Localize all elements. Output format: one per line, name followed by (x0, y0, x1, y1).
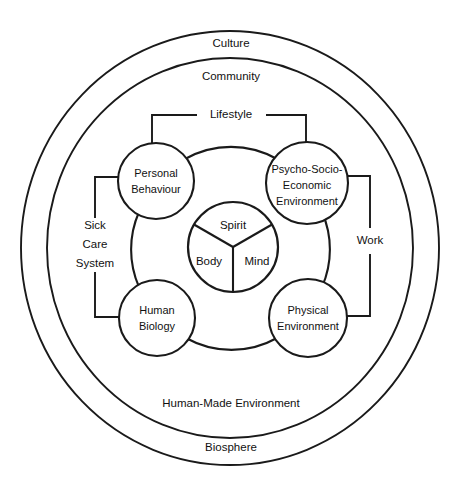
core-label-spirit: Spirit (220, 219, 247, 231)
bracket-label-work: Work (357, 234, 384, 246)
ring-label-human-made-environment: Human-Made Environment (162, 397, 300, 409)
node-human-biology[interactable] (119, 280, 195, 356)
node-label-human-biology-line2: Biology (139, 320, 176, 332)
node-label-psycho-socio-economic-environment-line1: Psycho-Socio- (272, 163, 343, 175)
ring-arc-right (322, 212, 330, 287)
node-personal-behaviour[interactable] (118, 143, 194, 219)
ring-label-biosphere: Biosphere (205, 441, 257, 453)
node-label-physical-environment-line2: Environment (277, 320, 339, 332)
ring-arc-top (185, 147, 277, 159)
core-label-mind: Mind (245, 255, 270, 267)
node-physical-environment[interactable] (269, 279, 347, 357)
node-label-physical-environment-line1: Physical (288, 304, 329, 316)
ring-arc-left (131, 212, 139, 287)
ring-arc-bottom (186, 338, 277, 350)
bracket-label-sick-care-system-line2: Care (83, 238, 108, 250)
mandala-of-health-diagram: Lifestyle Sick Care System Work Personal… (0, 0, 462, 489)
bracket-label-sick-care-system-line1: Sick (84, 219, 106, 231)
bracket-label-lifestyle: Lifestyle (210, 108, 252, 120)
node-label-psycho-socio-economic-environment-line2: Economic (283, 179, 332, 191)
node-label-psycho-socio-economic-environment-line3: Environment (276, 195, 338, 207)
ring-label-community: Community (202, 70, 260, 82)
node-label-human-biology-line1: Human (139, 304, 174, 316)
bracket-label-sick-care-system-line3: System (76, 257, 114, 269)
node-label-personal-behaviour-line2: Behaviour (131, 183, 181, 195)
core-label-body: Body (196, 255, 222, 267)
node-label-personal-behaviour-line1: Personal (134, 167, 177, 179)
ring-label-culture: Culture (212, 37, 249, 49)
diagram-canvas: Lifestyle Sick Care System Work Personal… (0, 0, 462, 489)
